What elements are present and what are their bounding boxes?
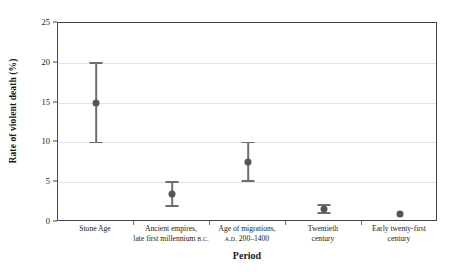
error-bar-cap-upper xyxy=(242,142,255,144)
x-category-label-line: century xyxy=(282,234,364,244)
data-point xyxy=(245,159,252,166)
y-tick-label: 0 xyxy=(10,216,50,226)
y-tick-label: 5 xyxy=(10,176,50,186)
error-bar-cap-lower xyxy=(242,180,255,182)
y-tick-label: 15 xyxy=(10,97,50,107)
data-point xyxy=(397,211,404,218)
y-tick-label: 10 xyxy=(10,136,50,146)
chart-figure: Rate of violent death (%) 0510152025 Sto… xyxy=(0,0,449,272)
error-bar-cap-lower xyxy=(166,205,179,207)
x-category-label-line: Age of migrations, xyxy=(206,224,288,234)
x-category-label-line: late first millennium B.C. xyxy=(130,234,212,245)
y-axis-title-text: Rate of violent death (%) xyxy=(8,58,18,163)
x-axis-title: Period xyxy=(57,250,437,261)
error-bar-cap-lower xyxy=(90,142,103,144)
error-bar-cap-upper xyxy=(90,62,103,64)
gridline xyxy=(58,182,436,183)
x-category-label-line: Stone Age xyxy=(54,224,136,234)
y-tick-label: 25 xyxy=(10,17,50,27)
x-category-label: Twentiethcentury xyxy=(282,224,364,243)
x-category-label-line: Early twenty-first xyxy=(358,224,440,234)
gridline xyxy=(58,103,436,104)
data-point xyxy=(169,191,176,198)
x-category-label-line: century xyxy=(358,234,440,244)
gridline xyxy=(58,63,436,64)
x-category-label-line: Ancient empires, xyxy=(130,224,212,234)
error-bar-cap-upper xyxy=(166,181,179,183)
x-category-label-line: A.D. 200–1400 xyxy=(206,234,288,245)
x-category-label: Early twenty-firstcentury xyxy=(358,224,440,243)
data-point xyxy=(93,99,100,106)
x-category-label: Age of migrations,A.D. 200–1400 xyxy=(206,224,288,244)
y-axis-title: Rate of violent death (%) xyxy=(2,0,24,221)
y-tick-label: 20 xyxy=(10,57,50,67)
small-caps-era: A.D. xyxy=(225,236,237,242)
x-category-label: Ancient empires,late first millennium B.… xyxy=(130,224,212,244)
plot-area xyxy=(57,22,437,221)
x-category-label: Stone Age xyxy=(54,224,136,234)
x-category-label-line: Twentieth xyxy=(282,224,364,234)
data-point xyxy=(321,206,328,213)
